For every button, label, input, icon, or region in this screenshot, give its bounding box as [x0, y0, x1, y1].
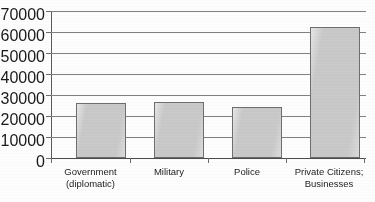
x-axis-label-private-citizens-businesses: Private Citizens; Businesses [284, 166, 374, 189]
x-tick-mark [286, 158, 287, 163]
y-tick-label: 30000 [0, 90, 45, 108]
bar-police [232, 107, 282, 158]
x-tick-mark [51, 158, 52, 163]
x-axis-label-military: Military [130, 166, 208, 178]
y-tick-label: 50000 [0, 48, 45, 66]
bar-military [154, 102, 204, 158]
x-tick-mark [364, 158, 365, 163]
y-tick-label: 20000 [0, 111, 45, 129]
cropped-caption [8, 196, 308, 202]
x-axis-label-police: Police [208, 166, 286, 178]
bar-chart-figure: 70000 60000 50000 40000 30000 20000 1000… [0, 0, 375, 202]
x-tick-mark [208, 158, 209, 163]
x-tick-mark [130, 158, 131, 163]
y-tick-label: 40000 [0, 69, 45, 87]
y-tick-label: 10000 [0, 132, 45, 150]
bar-private-citizens-businesses [310, 27, 360, 158]
x-axis-label-government-diplomatic: Government (diplomatic) [51, 166, 130, 189]
y-tick-label: 0 [0, 153, 45, 171]
y-tick-label: 70000 [0, 6, 45, 24]
bar-government-diplomatic [76, 103, 126, 158]
y-tick-label: 60000 [0, 27, 45, 45]
gridline-70000 [51, 11, 366, 12]
plot-area [51, 11, 366, 158]
